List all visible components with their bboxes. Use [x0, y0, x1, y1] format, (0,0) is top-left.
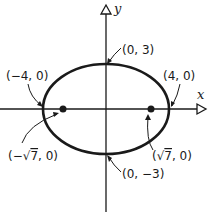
right-focus-point	[148, 106, 155, 113]
left-vertex-label: (−4, 0)	[6, 69, 48, 83]
arrowhead-icon	[53, 112, 59, 117]
x-axis-label: x	[197, 87, 205, 102]
ellipse-diagram: y x (0, 3) (−4, 0) (4, 0) (−√7, 0) (√7, …	[0, 0, 209, 212]
y-axis-label: y	[113, 1, 122, 16]
x-axis-arrow-icon	[197, 104, 206, 114]
right-focus-pointer	[148, 116, 153, 150]
top-vertex-label: (0, 3)	[122, 43, 154, 57]
left-focus-label: (−√7, 0)	[8, 149, 58, 163]
right-vertex-label: (4, 0)	[163, 69, 195, 83]
bottom-vertex-label: (0, −3)	[122, 167, 164, 181]
left-focus-pointer	[22, 114, 57, 143]
y-axis-arrow-icon	[101, 5, 111, 14]
arrowhead-icon	[145, 114, 151, 120]
right-focus-label: (√7, 0)	[152, 149, 192, 163]
left-focus-point	[60, 106, 67, 113]
